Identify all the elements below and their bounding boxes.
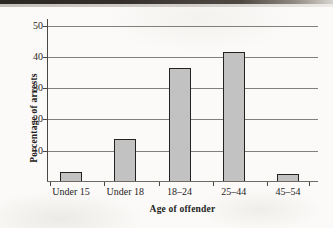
plot-area bbox=[47, 21, 318, 182]
y-tick-label-20: 20 bbox=[21, 114, 43, 124]
y-axis-tick-labels: 1020304050 bbox=[17, 21, 43, 182]
x-tick-label: 45–54 bbox=[260, 186, 316, 197]
x-axis-title: Age of offender bbox=[47, 204, 318, 214]
scan-artifact-band-soft bbox=[0, 4, 333, 7]
y-tick-50 bbox=[43, 26, 47, 27]
x-axis-tick-labels: Under 15Under 1818–2425–4445–54 bbox=[47, 186, 318, 200]
y-tick-10 bbox=[43, 151, 47, 152]
bar bbox=[169, 68, 191, 182]
y-tick-40 bbox=[43, 57, 47, 58]
x-axis-line bbox=[47, 181, 318, 182]
y-tick-label-40: 40 bbox=[21, 52, 43, 62]
gridline-50 bbox=[47, 26, 318, 27]
y-tick-label-50: 50 bbox=[21, 21, 43, 31]
chart-figure: Percentage of arrests 1020304050 Under 1… bbox=[0, 0, 333, 228]
x-tick-label: 25–44 bbox=[206, 186, 262, 197]
bar bbox=[114, 139, 136, 182]
x-tick-label: Under 18 bbox=[97, 186, 153, 197]
y-tick-label-30: 30 bbox=[21, 83, 43, 93]
y-axis-line bbox=[47, 19, 48, 182]
bar bbox=[223, 52, 245, 182]
y-tick-label-10: 10 bbox=[21, 146, 43, 156]
gridline-40 bbox=[47, 57, 318, 58]
y-tick-30 bbox=[43, 88, 47, 89]
x-tick-label: 18–24 bbox=[152, 186, 208, 197]
y-tick-20 bbox=[43, 119, 47, 120]
x-tick-label: Under 15 bbox=[43, 186, 99, 197]
